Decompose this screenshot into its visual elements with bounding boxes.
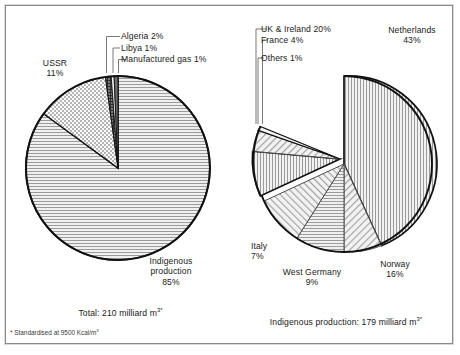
leader-others <box>258 58 264 124</box>
label-netherlands: Netherlands 43% <box>374 25 450 46</box>
label-indigenous-line3: 85% <box>128 277 214 287</box>
figure-frame: USSR 11% Algeria 2% Libya 1% Manufacture… <box>5 5 453 344</box>
label-algeria: Algeria 2% <box>121 31 164 41</box>
label-italy-pct: 7% <box>251 251 291 261</box>
label-norway: Norway 16% <box>370 259 420 280</box>
right-chart-caption: Indigenous production: 179 milliard m3* <box>246 314 446 327</box>
label-uk-ireland: UK & Ireland 20% <box>261 24 331 34</box>
footnote-text: * Standardised at 9500 Kcal/m <box>10 329 96 336</box>
footnote: * Standardised at 9500 Kcal/m3 <box>10 328 99 336</box>
label-italy: Italy 7% <box>251 241 291 262</box>
right-caption-text: Indigenous production: 179 milliard m <box>270 317 417 327</box>
label-indigenous-line1: Indigenous <box>128 256 214 266</box>
label-italy-name: Italy <box>251 241 291 251</box>
left-chart-caption: Total: 210 milliard m3* <box>38 305 203 318</box>
label-indigenous-production: Indigenous production 85% <box>128 256 214 287</box>
label-norway-name: Norway <box>370 259 420 269</box>
label-libya: Libya 1% <box>121 43 157 53</box>
label-west-germany-name: West Germany <box>269 267 355 277</box>
label-others: Others 1% <box>261 53 303 63</box>
label-indigenous-line2: production <box>128 266 214 276</box>
label-ussr: USSR 11% <box>28 58 82 79</box>
label-ussr-pct: 11% <box>28 68 82 78</box>
right-caption-superscript: 3* <box>416 316 422 322</box>
footnote-superscript: 3 <box>96 328 98 333</box>
label-manufactured-gas: Manufactured gas 1% <box>121 54 207 64</box>
leader-libya <box>113 48 120 73</box>
label-west-germany-pct: 9% <box>269 277 355 287</box>
label-netherlands-name: Netherlands <box>374 25 450 35</box>
label-ussr-name: USSR <box>28 58 82 68</box>
label-west-germany: West Germany 9% <box>269 267 355 288</box>
pie-charts-canvas <box>6 6 454 345</box>
left-caption-text: Total: 210 milliard m <box>78 308 157 318</box>
label-netherlands-pct: 43% <box>374 35 450 45</box>
left-caption-superscript: 3* <box>157 307 163 313</box>
label-france: France 4% <box>261 35 303 45</box>
left-pie <box>26 76 210 260</box>
label-norway-pct: 16% <box>370 269 420 279</box>
